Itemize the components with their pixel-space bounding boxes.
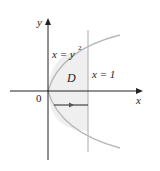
- line-label: x = 1: [91, 68, 115, 80]
- y-axis-label: y: [36, 16, 42, 28]
- region-label: D: [66, 71, 76, 85]
- y-axis-arrow-icon: [45, 18, 51, 25]
- parabola-label: x = y: [51, 48, 75, 60]
- parabola-exponent: 2: [78, 44, 82, 52]
- origin-label: 0: [36, 92, 42, 104]
- diagram-canvas: y x 0 x = y 2 D x = 1: [0, 0, 160, 171]
- x-axis-label: x: [135, 94, 141, 106]
